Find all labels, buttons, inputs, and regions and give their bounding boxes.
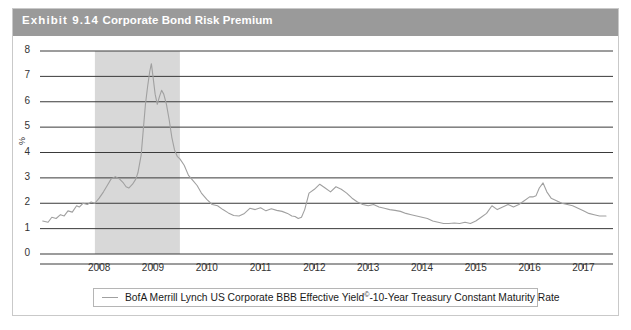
x-axis-tick-label: 2008: [79, 262, 119, 273]
legend-label-main: BofA Merrill Lynch US Corporate BBB Effe…: [125, 293, 364, 304]
y-axis-tick-label: 1: [14, 222, 30, 233]
y-axis-tick-label: 0: [14, 247, 30, 258]
y-axis-tick-label: 3: [14, 171, 30, 182]
x-axis-tick-label: 2013: [348, 262, 388, 273]
x-axis-tick-label: 2015: [456, 262, 496, 273]
x-axis-tick-label: 2010: [187, 262, 227, 273]
legend-item: BofA Merrill Lynch US Corporate BBB Effe…: [94, 289, 537, 306]
legend-line-swatch: [102, 297, 118, 298]
y-axis-tick-label: 2: [14, 196, 30, 207]
chart-legend: BofA Merrill Lynch US Corporate BBB Effe…: [93, 288, 538, 307]
y-axis-tick-label: 7: [14, 69, 30, 80]
chart-svg: [0, 0, 631, 330]
legend-item-label: BofA Merrill Lynch US Corporate BBB Effe…: [125, 291, 560, 303]
x-axis-tick-label: 2012: [294, 262, 334, 273]
chart-plot-area: % 01234567820082009201020112012201320142…: [0, 0, 631, 330]
x-axis-tick-label: 2016: [510, 262, 550, 273]
y-axis-title: %: [17, 137, 27, 145]
y-axis-tick-label: 6: [14, 95, 30, 106]
y-axis-tick-label: 5: [14, 120, 30, 131]
x-axis-tick-label: 2011: [241, 262, 281, 273]
x-axis-tick-label: 2009: [133, 262, 173, 273]
x-axis-tick-label: 2014: [402, 262, 442, 273]
y-axis-tick-label: 4: [14, 146, 30, 157]
x-axis-tick-label: 2017: [563, 262, 603, 273]
legend-label-tail: -10-Year Treasury Constant Maturity Rate: [369, 293, 559, 304]
y-axis-tick-label: 8: [14, 44, 30, 55]
exhibit-figure: Exhibit 9.14 Corporate Bond Risk Premium…: [0, 0, 631, 330]
